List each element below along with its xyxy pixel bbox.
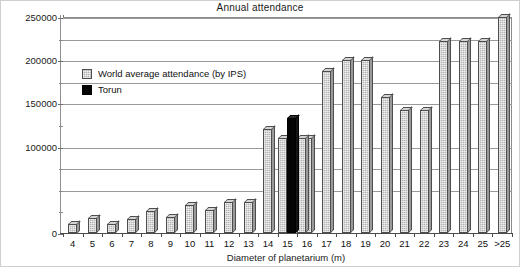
bar-ips — [361, 60, 370, 233]
bar-face — [127, 219, 136, 233]
bar-side — [487, 38, 490, 233]
x-axis-tick-label: 19 — [360, 238, 371, 249]
y-axis-tick — [59, 169, 63, 170]
y-axis-tick-label: 200000 — [0, 55, 57, 66]
y-axis-tick — [59, 191, 63, 192]
y-axis-tick-label: 250000 — [0, 12, 57, 23]
bar-side — [214, 206, 217, 233]
legend-swatch-ips-icon — [82, 69, 92, 79]
x-axis-tick — [453, 233, 454, 237]
x-axis-tick — [414, 233, 415, 237]
bar-side — [306, 134, 309, 232]
y-axis-tick — [58, 61, 63, 62]
bar-side — [312, 134, 315, 232]
bar-face — [322, 71, 331, 233]
bar-side — [155, 208, 158, 233]
bar-face — [287, 118, 296, 233]
bar-ips — [278, 138, 287, 233]
x-axis-title: Diameter of planetarium (m) — [60, 252, 512, 263]
bar-ips — [205, 210, 214, 233]
bar-ips — [146, 211, 155, 233]
y-axis-tick — [59, 83, 63, 84]
bar-face — [278, 138, 287, 233]
bar-ips — [88, 218, 97, 233]
bar-side — [253, 198, 256, 232]
x-axis-tick-label: 23 — [438, 238, 449, 249]
bar-side — [370, 57, 373, 233]
x-axis-tick — [200, 233, 201, 237]
x-axis-tick-label: 15 — [282, 238, 293, 249]
bar-side — [507, 13, 510, 232]
x-axis-tick-label: 16 — [302, 238, 313, 249]
bar-side — [390, 94, 393, 233]
x-axis-line — [60, 233, 512, 234]
bar-torun — [287, 118, 296, 233]
bar-side — [429, 107, 432, 233]
y-axis-outer-line — [60, 15, 61, 235]
x-axis-tick-label: 10 — [185, 238, 196, 249]
bar-face — [342, 60, 351, 233]
bar-ips — [459, 41, 468, 233]
bar-face — [244, 202, 253, 233]
x-axis-tick — [434, 233, 435, 237]
x-axis-tick — [122, 233, 123, 237]
x-axis-tick-label: 25 — [477, 238, 488, 249]
bar-ips — [439, 41, 448, 233]
bar-ips — [185, 205, 194, 233]
bar-ips — [478, 41, 487, 233]
x-axis-tick — [395, 233, 396, 237]
y-axis-tick — [58, 104, 63, 105]
bar-ips — [381, 97, 390, 233]
x-axis-tick-label: 4 — [70, 238, 75, 249]
bar-side — [194, 202, 197, 233]
bar-side — [409, 107, 412, 233]
bar-ips — [127, 219, 136, 233]
x-axis-tick — [473, 233, 474, 237]
bar-face — [498, 17, 507, 233]
x-axis-tick — [102, 233, 103, 237]
legend-label: World average attendance (by IPS) — [98, 68, 246, 79]
legend-item: World average attendance (by IPS) — [82, 68, 246, 79]
bar-side — [296, 114, 299, 232]
x-axis-tick-label: 18 — [341, 238, 352, 249]
x-axis-tick — [278, 233, 279, 237]
bar-side — [272, 126, 275, 233]
x-axis-tick-label: 12 — [224, 238, 235, 249]
y-axis-tick — [58, 148, 63, 149]
y-axis-tick-label: 150000 — [0, 98, 57, 109]
bar-ips — [166, 217, 175, 233]
bar-side — [351, 57, 354, 233]
bar-ips — [224, 202, 233, 233]
bar-side — [448, 38, 451, 233]
bar-ips — [342, 60, 351, 233]
y-axis-tick-label: 0 — [0, 228, 57, 239]
bar-face — [68, 224, 77, 234]
bar-face — [400, 110, 409, 233]
chart-title: Annual attendance — [0, 2, 520, 13]
bar-face — [185, 205, 194, 233]
bar-ips — [107, 224, 116, 233]
bar-ips — [68, 224, 77, 234]
y-axis-tick — [58, 18, 63, 19]
bar-ips — [498, 17, 507, 233]
y-axis-tick — [59, 40, 63, 41]
bar-face — [166, 217, 175, 233]
bar-face — [88, 218, 97, 233]
x-axis-tick — [63, 233, 64, 237]
bar-face — [381, 97, 390, 233]
x-axis-tick — [141, 233, 142, 237]
x-axis-tick-label: 21 — [399, 238, 410, 249]
chart-figure: Annual attendance 0100000150000200000250… — [0, 0, 520, 267]
bar-face — [439, 41, 448, 233]
y-axis-tick — [59, 126, 63, 127]
x-axis-tick-label: 5 — [90, 238, 95, 249]
bar-side — [331, 67, 334, 233]
x-axis-tick-label: 20 — [380, 238, 391, 249]
x-axis-tick-label: 22 — [419, 238, 430, 249]
x-axis-tick — [317, 233, 318, 237]
x-axis-tick — [375, 233, 376, 237]
x-axis-tick — [356, 233, 357, 237]
bar-ips — [263, 129, 272, 233]
x-axis-tick — [180, 233, 181, 237]
bar-face — [224, 202, 233, 233]
